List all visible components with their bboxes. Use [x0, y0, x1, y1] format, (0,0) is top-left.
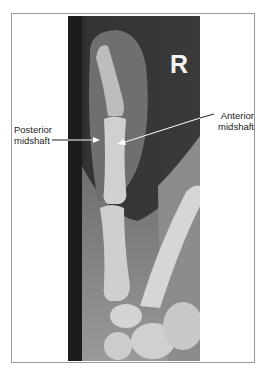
posterior-label-line2: midshaft	[14, 135, 52, 146]
anterior-label-line2: midshaft	[206, 121, 254, 132]
posterior-label-line1: Posterior	[14, 124, 52, 135]
posterior-arrow-icon	[52, 137, 100, 143]
annotation-arrows	[0, 0, 279, 372]
anterior-midshaft-label: Anterior midshaft	[206, 110, 254, 132]
anterior-label-line1: Anterior	[206, 110, 254, 121]
anterior-arrow-icon	[117, 114, 214, 145]
posterior-midshaft-label: Posterior midshaft	[14, 124, 52, 146]
